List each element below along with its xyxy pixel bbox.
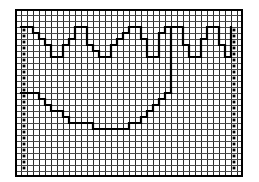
- grid-plate: [15, 9, 243, 177]
- backstitch-lines: [15, 9, 243, 177]
- lower-valley-backstitch: [21, 93, 171, 129]
- chart-root: [0, 0, 259, 182]
- upper-zigzag-backstitch: [21, 27, 171, 93]
- upper-zigzag-backstitch-right: [171, 27, 231, 57]
